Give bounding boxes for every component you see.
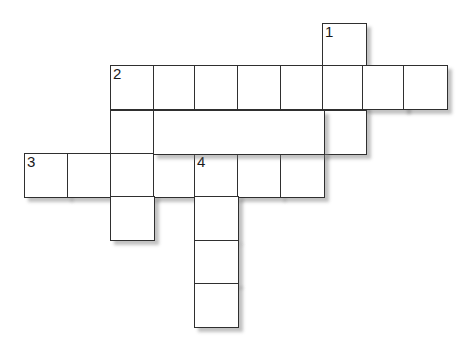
crossword-puzzle: 1234 [0, 0, 470, 348]
clue-number-4: 4 [197, 153, 205, 170]
crossword-cell[interactable] [67, 153, 112, 198]
cell-inner: 2 [111, 66, 154, 109]
crossword-cell[interactable] [153, 153, 198, 198]
crossword-cell[interactable] [362, 65, 407, 110]
cell-inner [195, 241, 238, 284]
cell-inner [323, 66, 366, 109]
crossword-cell[interactable]: 4 [194, 153, 239, 198]
crossword-open-band[interactable] [153, 110, 325, 155]
cell-inner [195, 66, 238, 109]
crossword-cell[interactable]: 1 [322, 23, 367, 68]
cell-inner [154, 66, 197, 109]
cell-inner [195, 284, 238, 327]
clue-number-1: 1 [325, 23, 333, 40]
crossword-cell[interactable] [322, 65, 367, 110]
cell-inner [68, 154, 111, 197]
cell-inner [111, 197, 154, 240]
crossword-cell[interactable]: 2 [110, 65, 155, 110]
crossword-cell[interactable]: 3 [24, 153, 69, 198]
cell-inner: 1 [323, 24, 366, 67]
cell-inner [154, 154, 197, 197]
crossword-cell[interactable] [237, 65, 282, 110]
cell-inner [363, 66, 406, 109]
crossword-cell[interactable] [110, 153, 155, 198]
crossword-cell[interactable] [194, 283, 239, 328]
crossword-cell[interactable] [194, 65, 239, 110]
crossword-cell[interactable] [237, 153, 282, 198]
cell-inner [281, 154, 324, 197]
crossword-cell[interactable] [194, 240, 239, 285]
clue-number-2: 2 [113, 65, 121, 82]
crossword-cell[interactable] [153, 65, 198, 110]
crossword-cell[interactable] [280, 65, 325, 110]
crossword-cell[interactable] [403, 65, 448, 110]
cell-inner [404, 66, 447, 109]
cell-inner [111, 154, 154, 197]
clue-number-3: 3 [27, 153, 35, 170]
crossword-cell[interactable] [110, 110, 155, 155]
cell-inner [323, 111, 366, 154]
crossword-cell[interactable] [194, 196, 239, 241]
cell-inner [238, 154, 281, 197]
cell-inner [195, 197, 238, 240]
cell-inner [238, 66, 281, 109]
cell-inner: 3 [25, 154, 68, 197]
crossword-cell[interactable] [110, 196, 155, 241]
cell-inner: 4 [195, 154, 238, 197]
crossword-grid: 1234 [0, 0, 470, 348]
crossword-cell[interactable] [322, 110, 367, 155]
cell-inner [281, 66, 324, 109]
crossword-cell[interactable] [280, 153, 325, 198]
cell-inner [111, 111, 154, 154]
